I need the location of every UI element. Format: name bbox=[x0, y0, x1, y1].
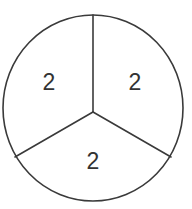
sector-label-upper-right: 2 bbox=[129, 69, 142, 95]
sector-label-upper-left: 2 bbox=[43, 69, 56, 95]
sector-label-bottom: 2 bbox=[87, 148, 100, 174]
divided-circle-diagram: 2 2 2 bbox=[0, 0, 192, 209]
